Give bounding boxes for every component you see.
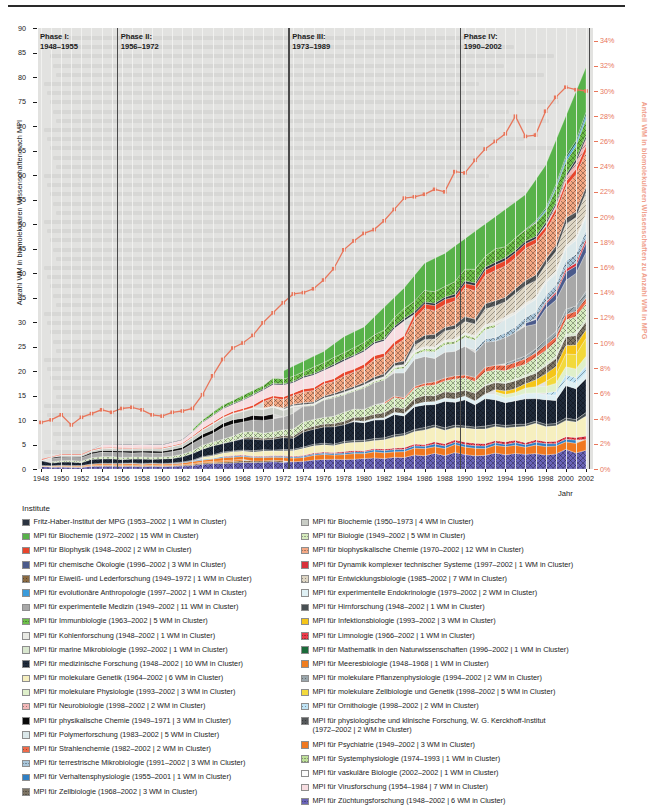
legend-left-item[interactable]: MPI für molekulare Physiologie (1993–200… [22,686,322,700]
x-tick: 1998 [538,474,554,483]
legend-item-label: MPI für Limnologie (1966–2002 | 1 WM in … [313,630,475,641]
x-tick-mark [223,469,224,472]
grid-line [162,28,163,469]
legend-item-label: MPI für Systemphysiologie (1974–1993 | 1… [313,753,501,764]
legend-left-item[interactable]: MPI für Polymerforschung (1983–2002 | 5 … [22,729,322,743]
y-tick-left: 75 [18,97,26,106]
y-tick-mark-right [594,419,598,420]
x-tick-mark [566,469,567,472]
top-rule [8,5,625,7]
legend-item-label: MPI für Biologie (1949–2002 | 5 WM in Cl… [313,530,466,541]
legend-left-item[interactable]: MPI für Kohlenforschung (1948–2002 | 1 W… [22,630,322,644]
legend-right-item[interactable]: MPI für Biochemie (1950–1973 | 4 WM in C… [301,516,633,530]
legend-left-item[interactable]: MPI für physikalische Chemie (1949–1971 … [22,715,322,729]
legend-right-item[interactable]: MPI für Virusforschung (1954–1984 | 7 WM… [301,781,633,795]
x-axis: Jahr 19481950195219541956195819601962196… [38,469,593,495]
legend-item-label: MPI für Eiweiß- und Lederforschung (1949… [34,573,252,584]
legend-right-item[interactable]: MPI für Biologie (1949–2002 | 5 WM in Cl… [301,530,633,544]
x-axis-label: Jahr [558,489,573,498]
legend-left-item[interactable]: MPI für medizinische Forschung (1948–200… [22,658,322,672]
legend-right-item[interactable]: MPI für physiologische und klinische For… [301,715,633,739]
y-tick-right: 2% [600,439,610,448]
y-tick-mark-left [33,151,37,152]
legend-swatch-icon [301,755,309,763]
legend-item-label: MPI für Polymerforschung (1983–2002 | 5 … [34,729,220,740]
y-tick-mark-left [33,469,37,470]
legend-left-item[interactable]: MPI für Neurobiologie (1998–2002 | 2 WM … [22,700,322,714]
y-tick-mark-left [33,273,37,274]
legend-swatch-icon [301,646,309,654]
legend-left-item[interactable]: MPI für experimentelle Medizin (1949–200… [22,601,322,615]
legend-right-item[interactable]: MPI für Dynamik komplexer technischer Sy… [301,559,633,573]
legend-swatch-icon [301,660,309,668]
legend-left-item[interactable]: MPI für Biophysik (1948–2002 | 2 WM in C… [22,544,322,558]
y-tick-left: 45 [18,244,26,253]
legend-right-item[interactable]: MPI für Psychiatrie (1949–2002 | 3 WM in… [301,739,633,753]
legend-swatch-icon [22,746,30,754]
legend-right-item[interactable]: MPI für Züchtungsforschung (1948–2002 | … [301,795,633,806]
legend-right-item[interactable]: MPI für biophysikalische Chemie (1970–20… [301,544,633,558]
legend-left-item[interactable]: MPI für molekulare Genetik (1964–2002 | … [22,672,322,686]
legend-right-item[interactable]: MPI für Entwicklungsbiologie (1985–2002 … [301,573,633,587]
y-tick-mark-left [33,347,37,348]
legend-right-item[interactable]: MPI für Mathematik in den Naturwissensch… [301,644,633,658]
legend-left-item[interactable]: MPI für evolutionäre Anthropologie (1997… [22,587,322,601]
legend-left-item[interactable]: Fritz-Haber-Institut der MPG (1953–2002 … [22,516,322,530]
legend-right-item[interactable]: MPI für experimentelle Endokrinologie (1… [301,587,633,601]
legend-right-item[interactable]: MPI für Hirnforschung (1948–2002 | 1 WM … [301,601,633,615]
legend-item-label: MPI für marine Mikrobiologie (1992–2002 … [34,644,228,655]
grid-line [41,28,42,469]
y-tick-right: 22% [600,187,614,196]
legend-swatch-icon [22,774,30,782]
legend-left-item[interactable]: MPI für terrestrische Mikrobiologie (199… [22,757,322,771]
legend-swatch-icon [301,547,309,555]
legend-left-item[interactable]: MPI für Eiweiß- und Lederforschung (1949… [22,573,322,587]
grid-line [293,28,294,469]
legend-left-item[interactable]: MPI für marine Mikrobiologie (1992–2002 … [22,644,322,658]
grid-line [51,28,52,469]
x-tick: 1966 [215,474,231,483]
legend-left-item[interactable]: MPI für Strahlenchemie (1982–2002 | 2 WM… [22,743,322,757]
y-tick-left: 25 [18,342,26,351]
legend: Institute Fritz-Haber-Institut der MPG (… [0,500,633,806]
legend-item-label: MPI für biophysikalische Chemie (1970–20… [313,544,524,555]
legend-swatch-icon [22,589,30,597]
legend-right-item[interactable]: MPI für Systemphysiologie (1974–1993 | 1… [301,753,633,767]
legend-right-item[interactable]: MPI für vaskuläre Biologie (2002–2002 | … [301,767,633,781]
y-tick-right: 0% [600,465,610,474]
phase-label-3: Phase III: 1973–1989 [292,32,330,51]
legend-right-item[interactable]: MPI für molekulare Pflanzenphysiologie (… [301,672,633,686]
legend-left-item[interactable]: MPI für Verhaltensphysiologie (1955–2001… [22,771,322,785]
y-tick-right: 14% [600,288,614,297]
grid-line [102,28,103,469]
legend-right-item[interactable]: MPI für Meeresbiologie (1948–1968 | 1 WM… [301,658,633,672]
y-tick-mark-left [33,298,37,299]
legend-item-label: MPI für experimentelle Endokrinologie (1… [313,587,538,598]
legend-left-item[interactable]: MPI für chemische Ökologie (1996–2002 | … [22,559,322,573]
legend-left-item[interactable]: MPI für Zellbiologie (1968–2002 | 3 WM i… [22,786,322,800]
y-tick-mark-right [594,469,598,470]
legend-item-label: Fritz-Haber-Institut der MPG (1953–2002 … [34,516,227,527]
x-tick-mark [41,469,42,472]
grid-line [192,28,193,469]
legend-right-item[interactable]: MPI für Infektionsbiologie (1993–2002 | … [301,615,633,629]
y-tick-right: 10% [600,339,614,348]
legend-item-label: MPI für Infektionsbiologie (1993–2002 | … [313,615,496,626]
x-tick: 1990 [457,474,473,483]
legend-left-item[interactable]: MPI für Biochemie (1972–2002 | 15 WM in … [22,530,322,544]
y-tick-mark-left [33,396,37,397]
y-tick-mark-left [33,175,37,176]
legend-swatch-icon [301,533,309,541]
legend-right-item[interactable]: MPI für Ornithologie (1998–2002 | 2 WM i… [301,700,633,714]
phase-label-2: Phase II: 1956–1972 [121,32,159,51]
legend-swatch-icon [301,717,309,725]
legend-left-item[interactable]: MPI für Immunbiologie (1963–2002 | 5 WM … [22,615,322,629]
x-tick-mark [546,469,547,472]
y-tick-mark-left [33,126,37,127]
legend-right-item[interactable]: MPI für Limnologie (1966–2002 | 1 WM in … [301,630,633,644]
legend-right-item[interactable]: MPI für molekulare Zellbiologie und Gene… [301,686,633,700]
legend-item-label: MPI für Immunbiologie (1963–2002 | 5 WM … [34,615,208,626]
legend-item-label: MPI für physikalische Chemie (1949–1971 … [34,715,231,726]
y-tick-mark-left [33,200,37,201]
x-tick: 1996 [517,474,533,483]
